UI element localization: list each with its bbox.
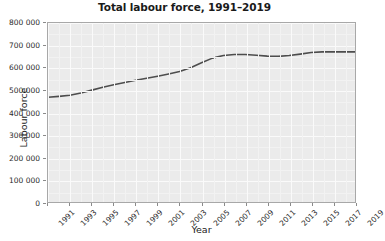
gridline-horizontal xyxy=(48,114,355,115)
gridline-vertical-minor xyxy=(169,23,170,202)
gridline-vertical-minor xyxy=(81,23,82,202)
gridline-horizontal-minor xyxy=(48,147,355,148)
gridline-vertical xyxy=(203,23,204,202)
gridline-vertical xyxy=(158,23,159,202)
gridline-vertical xyxy=(313,23,314,202)
x-axis-tick-mark xyxy=(356,203,357,206)
gridline-vertical-minor xyxy=(346,23,347,202)
x-axis-tick-mark xyxy=(47,203,48,206)
y-axis-tick-mark xyxy=(43,45,46,46)
gridline-vertical-minor xyxy=(214,23,215,202)
x-axis-tick-mark xyxy=(157,203,158,206)
y-axis-tick-label: 0 xyxy=(35,199,40,208)
x-axis-tick-mark xyxy=(224,203,225,206)
y-axis-tick-mark xyxy=(43,22,46,23)
x-axis-tick-mark xyxy=(334,203,335,206)
gridline-horizontal-minor xyxy=(48,80,355,81)
gridline-horizontal-minor xyxy=(48,170,355,171)
data-line-series xyxy=(48,23,355,202)
gridline-horizontal xyxy=(48,68,355,69)
y-axis-tick-mark xyxy=(43,203,46,204)
gridline-horizontal-minor xyxy=(48,34,355,35)
gridline-vertical xyxy=(269,23,270,202)
gridline-vertical-minor xyxy=(302,23,303,202)
x-axis-tick-mark xyxy=(312,203,313,206)
gridline-vertical-minor xyxy=(125,23,126,202)
y-axis-tick-label: 500 000 xyxy=(9,85,40,94)
gridline-horizontal xyxy=(48,159,355,160)
gridline-horizontal xyxy=(48,46,355,47)
y-axis-tick-label: 700 000 xyxy=(9,40,40,49)
gridline-horizontal-minor xyxy=(48,193,355,194)
gridline-horizontal xyxy=(48,91,355,92)
gridline-horizontal xyxy=(48,181,355,182)
x-axis-title: Year xyxy=(47,224,356,235)
y-axis-tick-mark xyxy=(43,67,46,68)
gridline-horizontal-minor xyxy=(48,57,355,58)
gridline-vertical xyxy=(225,23,226,202)
x-axis-tick-label: 2019 xyxy=(366,208,385,228)
x-axis-tick-mark xyxy=(246,203,247,206)
gridline-horizontal-minor xyxy=(48,102,355,103)
plot-area xyxy=(47,22,356,203)
gridline-vertical-minor xyxy=(324,23,325,202)
gridline-vertical-minor xyxy=(191,23,192,202)
x-axis-tick-mark xyxy=(135,203,136,206)
gridline-vertical-minor xyxy=(103,23,104,202)
gridline-vertical xyxy=(291,23,292,202)
gridline-vertical-minor xyxy=(258,23,259,202)
x-axis-tick-mark xyxy=(202,203,203,206)
gridline-horizontal xyxy=(48,23,355,24)
gridline-vertical xyxy=(335,23,336,202)
gridline-horizontal-minor xyxy=(48,125,355,126)
y-axis-tick-mark xyxy=(43,90,46,91)
gridline-vertical xyxy=(136,23,137,202)
y-axis-tick-mark xyxy=(43,180,46,181)
gridline-horizontal xyxy=(48,136,355,137)
y-axis-tick-label: 300 000 xyxy=(9,131,40,140)
gridline-vertical xyxy=(180,23,181,202)
gridline-vertical xyxy=(114,23,115,202)
x-axis-tick-mark xyxy=(268,203,269,206)
x-axis-tick-mark xyxy=(179,203,180,206)
x-axis-tick-mark xyxy=(113,203,114,206)
x-axis-tick-mark xyxy=(69,203,70,206)
gridline-vertical-minor xyxy=(59,23,60,202)
y-axis-tick-mark xyxy=(43,158,46,159)
y-axis-tick-label: 400 000 xyxy=(9,108,40,117)
y-axis-tick-mark xyxy=(43,113,46,114)
gridline-vertical xyxy=(247,23,248,202)
x-axis-tick-mark xyxy=(290,203,291,206)
y-axis-tick-label: 100 000 xyxy=(9,176,40,185)
chart-title: Total labour force, 1991–2019 xyxy=(0,1,369,13)
gridline-vertical xyxy=(70,23,71,202)
y-axis-tick-label: 800 000 xyxy=(9,18,40,27)
gridline-vertical xyxy=(92,23,93,202)
y-axis-tick-mark xyxy=(43,135,46,136)
x-axis-tick-mark xyxy=(91,203,92,206)
y-axis-tick-label: 200 000 xyxy=(9,153,40,162)
gridline-vertical-minor xyxy=(280,23,281,202)
gridline-vertical-minor xyxy=(147,23,148,202)
y-axis-tick-labels: 0100 000200 000300 000400 000500 000600 … xyxy=(0,22,44,203)
gridline-vertical-minor xyxy=(236,23,237,202)
gridline-vertical xyxy=(48,23,49,202)
y-axis-tick-label: 600 000 xyxy=(9,63,40,72)
